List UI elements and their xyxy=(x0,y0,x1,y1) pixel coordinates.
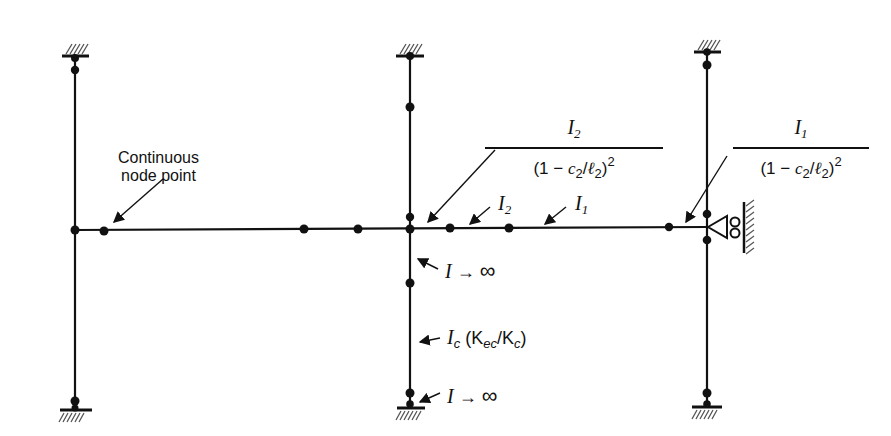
fraction-i1-over-shape-factor: I1 (1 − c2/ℓ2)2 xyxy=(733,116,869,185)
label-ic-stiffness: Ic (Kec/Kc) xyxy=(447,326,526,351)
continuous-node-label: Continuous node point xyxy=(118,149,199,185)
label-i2: I2 xyxy=(498,192,511,218)
fraction-numerator: I2 xyxy=(485,116,663,145)
fraction-bar xyxy=(733,147,869,149)
roller-support-icon xyxy=(708,200,754,254)
annotation-arrows xyxy=(114,150,727,402)
fixed-support-bottom-right-icon xyxy=(692,407,722,419)
fraction-i2-over-shape-factor: I2 (1 − c2/ℓ2)2 xyxy=(485,116,663,185)
label-i1: I1 xyxy=(575,192,588,218)
fraction-denominator: (1 − c2/ℓ2)2 xyxy=(733,151,869,185)
frame-diagram xyxy=(0,0,891,436)
caption-line-1: Continuous xyxy=(118,149,199,167)
fixed-support-bottom-center-icon xyxy=(396,408,425,420)
fixed-support-bottom-left-icon xyxy=(59,410,92,422)
fraction-bar xyxy=(485,147,663,149)
label-i-infinity-upper: I → ∞ xyxy=(445,258,495,284)
fraction-numerator: I1 xyxy=(733,116,869,145)
caption-line-2: node point xyxy=(118,167,199,185)
fraction-denominator: (1 − c2/ℓ2)2 xyxy=(485,151,663,185)
label-i-infinity-lower: I → ∞ xyxy=(447,383,497,409)
slab-beam xyxy=(75,227,707,230)
